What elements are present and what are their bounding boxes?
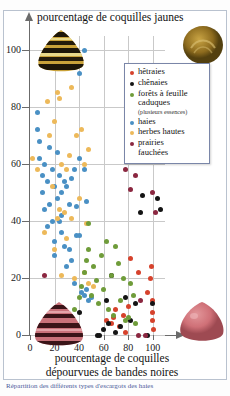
- data-point-haies: [50, 167, 55, 172]
- data-point-for-ts-feuille-caduques: [86, 247, 91, 252]
- y-tick-mark: [22, 278, 30, 279]
- data-point-h-traies: [148, 276, 153, 281]
- data-point-haies: [72, 167, 77, 172]
- data-point-haies: [35, 127, 40, 132]
- data-point-haies: [77, 233, 82, 238]
- legend-label: haies: [138, 117, 156, 127]
- x-tick-mark: [153, 335, 154, 340]
- data-point-for-ts-feuille-caduques: [84, 258, 89, 263]
- data-point-herbes-hautes: [64, 167, 69, 172]
- data-point-prairies-fauchees: [128, 187, 133, 192]
- data-point-haies: [40, 190, 45, 195]
- data-point-h-traies: [151, 327, 156, 332]
- x-tick-mark: [128, 335, 129, 340]
- data-point-for-ts-feuille-caduques: [96, 301, 101, 306]
- data-point-haies: [37, 139, 42, 144]
- data-point-h-traies: [126, 304, 131, 309]
- data-point-haies: [59, 190, 64, 195]
- data-point-herbes-hautes: [52, 119, 57, 124]
- data-point-herbes-hautes: [69, 85, 74, 90]
- data-point-haies: [52, 253, 57, 258]
- data-point-ch-naies: [155, 196, 160, 201]
- data-point-for-ts-feuille-caduques: [99, 253, 104, 258]
- data-point-haies: [82, 167, 87, 172]
- y-tick-mark: [22, 50, 30, 51]
- data-point-herbes-hautes: [55, 216, 60, 221]
- y-tick-label: 20: [0, 273, 21, 283]
- y-tick-mark: [22, 107, 30, 108]
- legend: hêtraieschênaiesforêts à feuillecaduques…: [124, 63, 210, 164]
- data-point-ch-naies: [101, 327, 106, 332]
- data-point-prairies-fauchees: [150, 190, 155, 195]
- data-point-for-ts-feuille-caduques: [82, 270, 87, 275]
- data-point-for-ts-feuille-caduques: [101, 287, 106, 292]
- data-point-for-ts-feuille-caduques: [94, 278, 99, 283]
- legend-swatch-icon: [130, 142, 134, 146]
- data-point-haies: [37, 156, 42, 161]
- data-point-h-traies: [128, 256, 133, 261]
- data-point-haies: [62, 179, 67, 184]
- data-point-h-traies: [123, 330, 128, 335]
- data-point-herbes-hautes: [82, 162, 87, 167]
- data-point-haies: [57, 173, 62, 178]
- data-point-haies: [84, 287, 89, 292]
- data-point-haies: [84, 199, 89, 204]
- data-point-haies: [45, 224, 50, 229]
- legend-swatch-icon: [130, 131, 134, 135]
- data-point-ch-naies: [133, 301, 138, 306]
- legend-label: hêtraies: [138, 67, 165, 77]
- y-tick-label: 100: [0, 45, 21, 55]
- data-point-prairies-fauchees: [138, 298, 143, 303]
- data-point-for-ts-feuille-caduques: [89, 293, 94, 298]
- data-point-h-traies: [113, 307, 118, 312]
- data-point-for-ts-feuille-caduques: [106, 307, 111, 312]
- banded-pink-shell: [29, 300, 89, 348]
- legend-item: herbes hautes: [129, 127, 205, 137]
- legend-item: chênaies: [129, 78, 205, 88]
- data-point-ch-naies: [140, 193, 145, 198]
- data-point-haies: [35, 110, 40, 115]
- data-point-haies: [45, 179, 50, 184]
- data-point-herbes-hautes: [86, 147, 91, 152]
- data-point-haies: [55, 196, 60, 201]
- legend-label: chênaies: [138, 78, 168, 88]
- data-point-haies: [67, 202, 72, 207]
- data-point-haies: [50, 219, 55, 224]
- legend-item: forêts à feuillecaduques(plusieurs essen…: [129, 89, 205, 116]
- y-tick-label: 40: [0, 216, 21, 226]
- data-point-herbes-hautes: [30, 156, 35, 161]
- legend-swatch-icon: [130, 93, 134, 97]
- data-point-ch-naies: [118, 324, 123, 329]
- data-point-herbes-hautes: [91, 284, 96, 289]
- data-point-prairies-fauchees: [136, 333, 141, 338]
- data-point-herbes-hautes: [79, 127, 84, 132]
- data-point-herbes-hautes: [77, 196, 82, 201]
- x-axis-title-line2: dépourvues de bandes noires: [46, 366, 179, 378]
- y-axis-arrow-icon: [25, 12, 33, 21]
- legend-label: prairiesfauchées: [138, 138, 168, 158]
- data-point-herbes-hautes: [59, 273, 64, 278]
- legend-item: prairiesfauchées: [129, 138, 205, 158]
- gridline-horizontal: [30, 164, 165, 165]
- data-point-h-traies: [145, 290, 150, 295]
- data-point-prairies-fauchees: [153, 210, 158, 215]
- data-point-haies: [69, 176, 74, 181]
- data-point-herbes-hautes: [59, 162, 64, 167]
- data-point-haies: [59, 230, 64, 235]
- data-point-h-traies: [150, 310, 155, 315]
- y-tick-label: 80: [0, 102, 21, 112]
- data-point-for-ts-feuille-caduques: [86, 221, 91, 226]
- legend-item: haies: [129, 117, 205, 127]
- data-point-ch-naies: [113, 330, 118, 335]
- legend-swatch-icon: [130, 71, 134, 75]
- data-point-prairies-fauchees: [42, 273, 47, 278]
- data-point-haies: [64, 264, 69, 269]
- y-tick-mark: [22, 164, 30, 165]
- y-tick-mark: [22, 221, 30, 222]
- legend-label: forêts à feuillecaduques(plusieurs essen…: [138, 89, 188, 116]
- data-point-haies: [42, 207, 47, 212]
- data-point-for-ts-feuille-caduques: [131, 293, 136, 298]
- data-point-haies: [64, 184, 69, 189]
- data-point-for-ts-feuille-caduques: [128, 281, 133, 286]
- data-point-herbes-hautes: [64, 236, 69, 241]
